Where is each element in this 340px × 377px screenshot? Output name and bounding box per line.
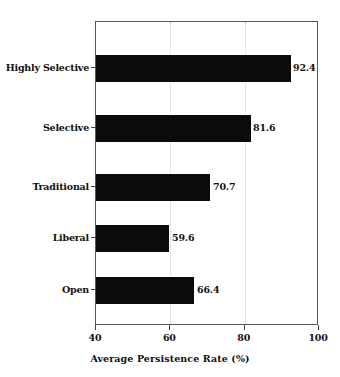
value-label-selective: 81.6 <box>253 123 275 133</box>
y-label-highly-selective: Highly Selective <box>6 63 89 73</box>
x-tick-40 <box>95 325 96 330</box>
y-tick-open <box>91 289 96 290</box>
y-tick-selective <box>91 127 96 128</box>
plot-area <box>95 21 318 325</box>
x-tick-80 <box>244 325 245 330</box>
value-label-liberal: 59.6 <box>172 233 194 243</box>
bar-open <box>96 277 194 304</box>
y-label-selective: Selective <box>43 123 89 133</box>
bar-traditional <box>96 174 210 201</box>
y-tick-traditional <box>91 186 96 187</box>
x-tick-label-100: 100 <box>308 333 327 343</box>
x-tick-label-80: 80 <box>237 333 250 343</box>
x-tick-label-60: 60 <box>163 333 176 343</box>
y-label-open: Open <box>62 285 89 295</box>
y-axis-labels: Highly Selective Selective Traditional L… <box>0 21 89 325</box>
bar-chart-figure: 92.4 81.6 70.7 59.6 66.4 Highly Selectiv… <box>0 0 340 377</box>
bar-highly-selective <box>96 55 291 82</box>
y-label-liberal: Liberal <box>53 233 89 243</box>
value-label-open: 66.4 <box>197 285 219 295</box>
x-tick-label-40: 40 <box>89 333 102 343</box>
y-tick-highly-selective <box>91 67 96 68</box>
y-label-traditional: Traditional <box>32 182 89 192</box>
value-label-highly-selective: 92.4 <box>293 63 315 73</box>
x-axis-title: Average Persistence Rate (%) <box>0 354 340 364</box>
bar-selective <box>96 115 251 142</box>
bar-liberal <box>96 225 169 252</box>
x-tick-100 <box>318 325 319 330</box>
value-label-traditional: 70.7 <box>213 182 235 192</box>
y-tick-liberal <box>91 237 96 238</box>
x-tick-60 <box>169 325 170 330</box>
